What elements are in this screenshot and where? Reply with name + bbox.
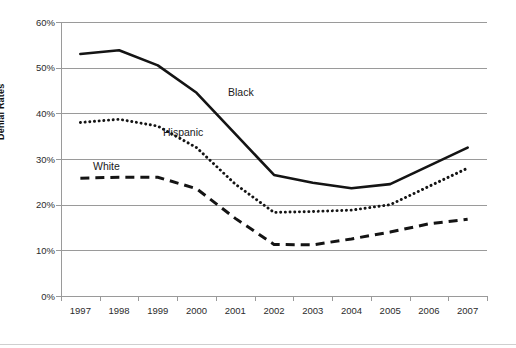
x-tickmark-5 bbox=[255, 296, 256, 301]
x-tickmark-10 bbox=[448, 296, 449, 301]
series-line-white bbox=[80, 177, 467, 245]
y-tick-60: 60% bbox=[21, 17, 55, 28]
x-tickmark-11 bbox=[487, 296, 488, 301]
series-label-white: White bbox=[93, 160, 120, 172]
x-tickmark-6 bbox=[293, 296, 294, 301]
y-tick-30: 30% bbox=[21, 154, 55, 165]
x-tickmark-7 bbox=[332, 296, 333, 301]
chart-figure: Denial Rates 60% 50% 40% 30% 20% 10% 0% … bbox=[0, 0, 516, 348]
x-tickmark-3 bbox=[177, 296, 178, 301]
y-tick-10: 10% bbox=[21, 245, 55, 256]
x-tickmark-0 bbox=[61, 296, 62, 301]
x-tickmark-2 bbox=[138, 296, 139, 301]
y-tick-0: 0% bbox=[21, 291, 55, 302]
y-axis-tick-labels: 60% 50% 40% 30% 20% 10% 0% bbox=[19, 0, 55, 348]
x-tickmark-8 bbox=[371, 296, 372, 301]
plot-area bbox=[61, 22, 487, 296]
series-label-black: Black bbox=[228, 86, 254, 98]
x-tickmark-1 bbox=[100, 296, 101, 301]
y-tick-40: 40% bbox=[21, 108, 55, 119]
y-tick-20: 20% bbox=[21, 199, 55, 210]
series-label-hispanic: Hispanic bbox=[163, 126, 203, 138]
y-tick-50: 50% bbox=[21, 62, 55, 73]
x-tickmark-9 bbox=[410, 296, 411, 301]
series-line-hispanic bbox=[80, 119, 467, 212]
x-tickmark-4 bbox=[216, 296, 217, 301]
page-divider bbox=[0, 344, 516, 345]
series-line-black bbox=[80, 50, 467, 188]
series-lines bbox=[61, 22, 487, 296]
gridline-0 bbox=[61, 296, 487, 297]
y-axis-title: Denial Rates bbox=[0, 84, 6, 140]
x-tick-label-2007: 2007 bbox=[445, 305, 491, 316]
